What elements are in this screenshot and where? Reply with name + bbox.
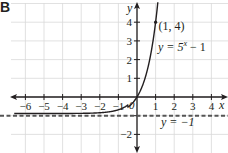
curve-equation-label: y = 5x − 1 [157, 39, 206, 54]
x-tick-label: 4 [209, 100, 215, 112]
data-series [0, 2, 228, 115]
x-tick-label: −2 [94, 100, 106, 112]
x-tick-label: 1 [153, 100, 159, 112]
origin-label: 0 [129, 99, 135, 111]
point-label: (1, 4) [159, 19, 185, 33]
asymptote-label: y = −1 [160, 115, 195, 129]
x-tick-label: 3 [190, 100, 196, 112]
y-tick-label: 3 [127, 35, 133, 47]
y-tick-label: −2 [120, 128, 132, 140]
y-tick-label: 2 [127, 54, 133, 66]
x-tick-label: −6 [20, 100, 32, 112]
point-marker [154, 21, 157, 24]
exponential-graph: −6−5−4−3−2−11234−21234 (1, 4) y = 5x − 1… [0, 0, 228, 153]
x-tick-label: −1 [113, 100, 125, 112]
y-tick-label: 4 [127, 16, 133, 28]
x-tick-label: −3 [75, 100, 87, 112]
y-tick-label: 1 [127, 72, 133, 84]
y-axis-label: y [126, 1, 133, 15]
x-tick-label: −5 [38, 100, 50, 112]
axes [10, 2, 228, 153]
curve-equation-suffix: − 1 [187, 40, 206, 54]
x-tick-label: 2 [171, 100, 177, 112]
x-axis-label: x [218, 98, 225, 112]
curve-equation-prefix: y = 5 [157, 40, 183, 54]
x-tick-label: −4 [57, 100, 69, 112]
